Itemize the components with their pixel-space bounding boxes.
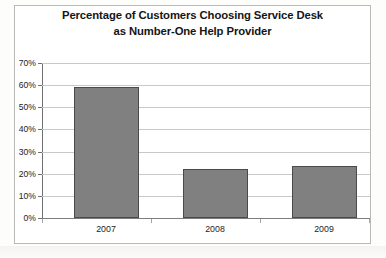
y-tick-label-20: 20%	[6, 169, 36, 179]
y-tick-label-40: 40%	[6, 124, 36, 134]
chart-title-line-1: Percentage of Customers Choosing Service…	[20, 8, 365, 24]
plot-area	[42, 63, 370, 218]
x-axis-label-2007: 2007	[96, 224, 116, 234]
x-axis-label-2009: 2009	[314, 224, 334, 234]
scan-artifact-band	[0, 246, 386, 258]
gridline-70	[42, 63, 370, 64]
bar-2007[interactable]	[74, 87, 139, 218]
bar-2009[interactable]	[292, 166, 357, 218]
x-tick-mark-end	[369, 219, 370, 223]
y-tick-label-30: 30%	[6, 147, 36, 157]
x-tick-mark-start	[42, 219, 43, 223]
y-tick-label-50: 50%	[6, 102, 36, 112]
y-axis-tick-labels: 70% 60% 50% 40% 30% 20% 10% 0%	[4, 63, 36, 218]
x-tick-mark-2	[260, 219, 261, 223]
x-tick-mark-1	[151, 219, 152, 223]
y-tick-label-70: 70%	[6, 58, 36, 68]
y-tick-label-10: 10%	[6, 191, 36, 201]
y-tick-label-60: 60%	[6, 80, 36, 90]
chart-title-line-2: as Number-One Help Provider	[20, 24, 365, 40]
chart-title: Percentage of Customers Choosing Service…	[20, 8, 365, 39]
gridline-60	[42, 85, 370, 86]
bar-2008[interactable]	[183, 169, 248, 218]
gridline-baseline-0	[42, 218, 370, 219]
bar-chart-figure: Percentage of Customers Choosing Service…	[0, 0, 386, 258]
y-tick-label-0: 0%	[6, 213, 36, 223]
x-axis-label-2008: 2008	[205, 224, 225, 234]
